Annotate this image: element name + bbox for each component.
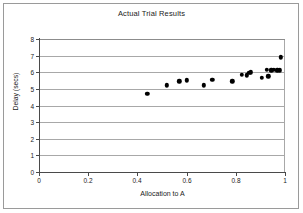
x-axis-title: Allocation to A [39, 190, 286, 197]
gridline-y-3 [39, 122, 285, 123]
y-tick-mark-1 [36, 155, 39, 156]
datapoint [266, 74, 270, 78]
datapoint [177, 79, 181, 83]
y-tick-label-1: 1 [20, 152, 34, 159]
x-tick-mark-0.8 [236, 173, 237, 176]
x-tick-label-0: 0 [27, 177, 51, 184]
x-tick-mark-0.2 [88, 173, 89, 176]
y-tick-label-2: 2 [20, 136, 34, 143]
gridline-y-1 [39, 155, 285, 156]
y-tick-label-4: 4 [20, 103, 34, 110]
x-tick-mark-0.6 [187, 173, 188, 176]
y-tick-mark-7 [36, 56, 39, 57]
datapoint [240, 73, 244, 77]
y-tick-label-6: 6 [20, 69, 34, 76]
x-tick-mark-0 [39, 173, 40, 176]
y-tick-label-5: 5 [20, 86, 34, 93]
plot-area [39, 39, 285, 172]
x-tick-label-1: 1 [273, 177, 297, 184]
y-tick-mark-2 [36, 139, 39, 140]
y-tick-mark-4 [36, 106, 39, 107]
x-tick-label-0.4: 0.4 [125, 177, 149, 184]
chart-title: Actual Trial Results [0, 9, 303, 18]
y-axis-line [39, 38, 40, 173]
y-tick-label-8: 8 [20, 36, 34, 43]
x-tick-mark-0.4 [137, 173, 138, 176]
datapoint [202, 83, 206, 87]
x-axis-line [39, 172, 286, 173]
x-tick-mark-1 [285, 173, 286, 176]
gridline-y-2 [39, 139, 285, 140]
x-tick-label-0.6: 0.6 [175, 177, 199, 184]
gridline-y-7 [39, 56, 285, 57]
gridline-y-5 [39, 89, 285, 90]
y-tick-mark-5 [36, 89, 39, 90]
chart-screenshot: Actual Trial Results 012345678 00.20.40.… [0, 0, 303, 213]
datapoint [249, 70, 253, 74]
y-tick-mark-3 [36, 122, 39, 123]
y-tick-mark-8 [36, 39, 39, 40]
datapoint [230, 79, 234, 83]
datapoint [145, 92, 149, 96]
y-tick-label-3: 3 [20, 119, 34, 126]
gridline-y-4 [39, 106, 285, 107]
y-tick-mark-6 [36, 72, 39, 73]
y-tick-label-0: 0 [20, 169, 34, 176]
datapoint [210, 78, 214, 82]
datapoint [278, 55, 282, 59]
x-tick-label-0.2: 0.2 [76, 177, 100, 184]
gridline-y-8 [39, 39, 285, 40]
y-axis-title: Delay (secs) [12, 52, 19, 132]
datapoint [259, 75, 263, 79]
y-tick-label-7: 7 [20, 53, 34, 60]
datapoint [184, 78, 188, 82]
x-tick-label-0.8: 0.8 [224, 177, 248, 184]
datapoint [165, 83, 169, 87]
